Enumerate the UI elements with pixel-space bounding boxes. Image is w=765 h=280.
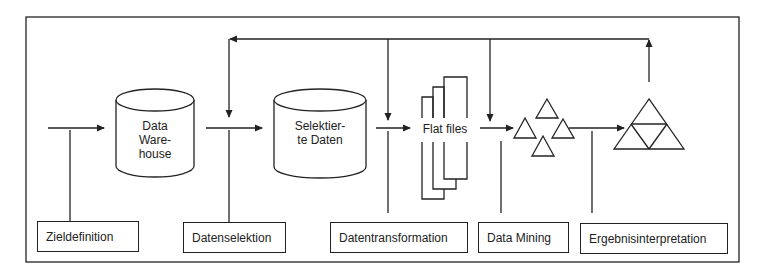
arrow-zieldefinition [48, 128, 104, 221]
label-line: Selektier- [280, 119, 360, 133]
data-warehouse-label: Data Ware- house [125, 119, 185, 161]
knowledge-pyramid-icon [614, 99, 684, 149]
arrow-data-mining [480, 128, 513, 213]
flat-files-stack-icon [422, 77, 467, 199]
step-zieldefinition: Zieldefinition [37, 221, 139, 252]
step-ergebnisinterpretation: Ergebnisinterpretation [580, 223, 728, 254]
label-line: Ware- [125, 133, 185, 147]
label-line: house [125, 147, 185, 161]
flat-files-label: Flat files [412, 122, 478, 136]
arrow-ergebnisinterpretation [569, 128, 624, 213]
step-datentransformation: Datentransformation [330, 222, 468, 253]
label-line: Data [125, 119, 185, 133]
arrow-datenselektion [206, 128, 262, 222]
arrow-datentransformation [376, 128, 410, 213]
selektierte-daten-label: Selektier- te Daten [280, 119, 360, 147]
label-line: te Daten [280, 133, 360, 147]
patterns-triangles-icon [514, 99, 574, 156]
step-datenselektion: Datenselektion [183, 222, 286, 253]
step-data-mining: Data Mining [478, 222, 569, 253]
